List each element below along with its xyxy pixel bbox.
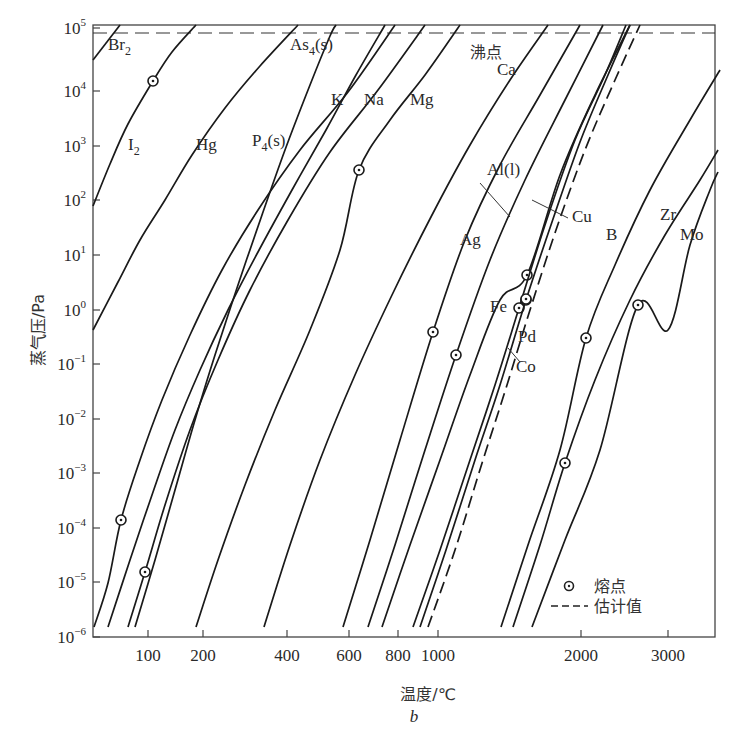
series-label-cu: Cu — [572, 207, 592, 226]
x-tick-label: 800 — [385, 646, 411, 665]
y-tick-label: 10−6 — [57, 625, 86, 647]
y-tick-label: 10−5 — [57, 570, 86, 592]
curve-ps — [108, 25, 385, 627]
y-tick-label: 102 — [64, 188, 87, 210]
legend-melting-label: 熔点 — [594, 577, 626, 596]
series-label-ca: Ca — [497, 60, 516, 79]
series-label-br: Br2 — [108, 35, 131, 58]
curve-ag — [343, 25, 580, 627]
series-fe — [413, 25, 626, 627]
curve-k — [94, 25, 395, 627]
series-label-na: Na — [364, 90, 384, 109]
series-label-pd: Pd — [518, 327, 536, 346]
series-label-mg: Mg — [410, 90, 434, 109]
series-ps — [108, 25, 385, 627]
series-cu — [382, 25, 630, 627]
curve-cu — [382, 25, 630, 627]
curve-fe — [413, 25, 626, 627]
y-tick-label: 105 — [64, 16, 87, 38]
x-tick-label: 2000 — [564, 646, 598, 665]
series-k — [94, 25, 395, 627]
series-all — [368, 25, 603, 627]
series-label-mo: Mo — [680, 225, 704, 244]
y-tick-label: 10−2 — [57, 407, 86, 429]
curve-co — [428, 25, 640, 627]
y-tick-label: 10−1 — [57, 352, 86, 374]
figure-subtitle: b — [410, 707, 419, 726]
y-tick-label: 104 — [64, 79, 87, 101]
curve-b — [501, 70, 720, 627]
series-label-b: B — [606, 225, 617, 244]
x-tick-label: 600 — [336, 646, 362, 665]
x-axis: 100200400600800100020003000 — [135, 630, 685, 665]
series-label-i: I2 — [128, 135, 140, 158]
y-tick-label: 10−3 — [57, 461, 86, 483]
series-b — [501, 70, 720, 627]
y-tick-label: 103 — [64, 134, 87, 156]
y-tick-label: 101 — [64, 243, 87, 265]
series-label-all: Al(l) — [487, 160, 520, 179]
series-label-k: K — [331, 90, 344, 109]
curve-ass — [135, 25, 336, 627]
x-axis-title: 温度/℃ — [400, 685, 455, 704]
series-label-zr: Zr — [660, 205, 676, 224]
legend-melting-point: 熔点 — [565, 577, 627, 596]
boiling-point-label: 沸点 — [470, 43, 502, 62]
x-tick-label: 200 — [190, 646, 216, 665]
series-ca — [264, 25, 548, 627]
series-hg — [93, 25, 298, 330]
x-tick-label: 400 — [274, 646, 300, 665]
series-ag — [343, 25, 580, 627]
series-curves — [93, 25, 720, 627]
x-tick-label: 3000 — [651, 646, 685, 665]
y-tick-label: 10−4 — [57, 516, 86, 538]
plot-frame — [93, 25, 715, 637]
series-label-fe: Fe — [490, 297, 507, 316]
curve-na — [128, 25, 425, 627]
series-label-co: Co — [516, 357, 536, 376]
curve-all — [368, 25, 603, 627]
curve-hg — [93, 25, 298, 330]
vapor-pressure-chart: 10510410310210110010−110−210−310−410−510… — [0, 0, 738, 741]
x-tick-label: 100 — [135, 646, 161, 665]
x-tick-label: 1000 — [421, 646, 455, 665]
curve-ca — [264, 25, 548, 627]
legend-estimated: 估计值 — [551, 597, 642, 616]
series-ass — [135, 25, 336, 627]
series-co — [428, 25, 640, 627]
series-label-ps: P4(s) — [252, 131, 285, 154]
y-axis-title: 蒸气压/Pa — [29, 294, 48, 366]
series-labels: Br2I2HgP4(s)As4(s)KNaMgCaAgAl(l)CuFePdCo… — [108, 35, 704, 376]
series-na — [128, 25, 425, 627]
leader-line — [480, 183, 510, 217]
y-tick-label: 100 — [64, 298, 87, 320]
legend: 熔点 估计值 — [551, 577, 642, 616]
series-label-ass: As4(s) — [290, 35, 333, 58]
series-label-ag: Ag — [460, 230, 481, 249]
series-label-hg: Hg — [196, 135, 217, 154]
legend-estimated-label: 估计值 — [594, 597, 642, 616]
